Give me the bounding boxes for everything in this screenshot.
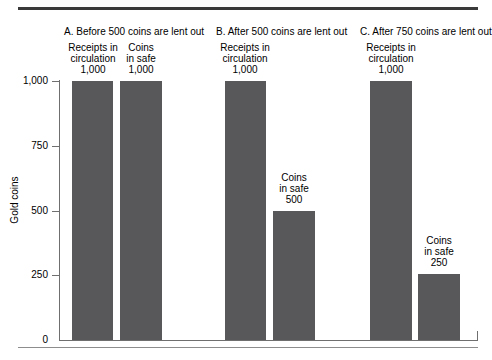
y-tick-label-250: 250 [4,270,48,280]
panel-c-title: C. After 750 coins are lent out [360,26,492,37]
panel-b-bar-receipts-in-circulation [225,81,266,340]
panel-a-title: A. Before 500 coins are lent out [64,26,204,37]
panel-c-bar-1-value: 1,000 [360,64,422,75]
y-tick-label-500-wrap: 500 [0,206,48,216]
panel-b-bar-1-label-line2: circulation [214,53,276,64]
panel-a-bar-2-label-line2: in safe [111,53,171,64]
panel-a-bar-receipts-in-circulation [72,81,113,340]
panel-b-bar-2-label: Coins in safe 500 [264,172,324,205]
y-tick-label-250-wrap: 250 [0,270,48,280]
panel-c-bar-2-label: Coins in safe 250 [409,235,469,268]
panel-c-bar-receipts-in-circulation [370,81,412,340]
panel-b-bar-2-label-line1: Coins [264,172,324,183]
panel-a-bar-2-label-line1: Coins [111,42,171,53]
panel-b-bar-1-label: Receipts in circulation 1,000 [214,42,276,75]
x-axis-line [59,340,478,341]
panel-b-title: B. After 500 coins are lent out [216,26,347,37]
y-tick-label-1000: 1,000 [4,76,48,86]
panel-c-bar-coins-in-safe [418,274,460,340]
panel-c-bar-2-label-line1: Coins [409,235,469,246]
y-tick-label-750-wrap: 750 [0,141,48,151]
y-tick-mark-500 [52,211,59,212]
y-axis-line [59,80,60,341]
top-divider-rule [18,7,478,10]
y-tick-label-500: 500 [4,206,48,216]
x-axis-right-end-cap [477,331,478,341]
panel-c-bar-1-label-line1: Receipts in [360,42,422,53]
panel-b-bar-1-label-line1: Receipts in [214,42,276,53]
y-tick-mark-250 [52,275,59,276]
panel-b-bar-2-value: 500 [264,194,324,205]
y-axis-title: Gold coins [10,160,20,240]
y-tick-mark-750 [52,146,59,147]
panel-c-bar-1-label: Receipts in circulation 1,000 [360,42,422,75]
y-tick-mark-1000 [52,81,59,82]
y-tick-label-750: 750 [4,141,48,151]
panel-a-bar-2-label: Coins in safe 1,000 [111,42,171,75]
panel-b-bar-2-label-line2: in safe [264,183,324,194]
y-tick-label-0: 0 [4,335,48,345]
panel-c-bar-2-label-line2: in safe [409,246,469,257]
panel-a-bar-2-value: 1,000 [111,64,171,75]
y-tick-label-1000-wrap: 1,000 [0,76,48,86]
panel-b-bar-1-value: 1,000 [214,64,276,75]
panel-b-bar-coins-in-safe [273,211,315,340]
panel-a-bar-coins-in-safe [120,81,162,340]
panel-c-bar-1-label-line2: circulation [360,53,422,64]
bottom-divider-rule [18,347,478,348]
y-tick-label-0-wrap: 0 [0,335,48,345]
panel-c-bar-2-value: 250 [409,257,469,268]
